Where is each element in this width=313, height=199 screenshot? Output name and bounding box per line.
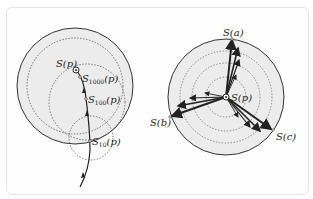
- label-s-a: S(a): [223, 27, 244, 38]
- label-s-p: S(p): [56, 58, 77, 69]
- arrow-head-icon: [81, 172, 85, 178]
- label-s10: S10(p): [92, 136, 121, 148]
- outer-ball-circle: [17, 28, 133, 144]
- label-s-p-right: S(p): [231, 92, 252, 103]
- diagram-canvas: S(p) S1000(p) S100(p) S10(p): [0, 0, 313, 199]
- label-s-b: S(b): [150, 117, 171, 128]
- right-diagram: S(a) S(b) S(c) S(p): [150, 27, 296, 155]
- left-diagram: S(p) S1000(p) S100(p) S10(p): [17, 28, 133, 187]
- label-s-c: S(c): [276, 131, 296, 142]
